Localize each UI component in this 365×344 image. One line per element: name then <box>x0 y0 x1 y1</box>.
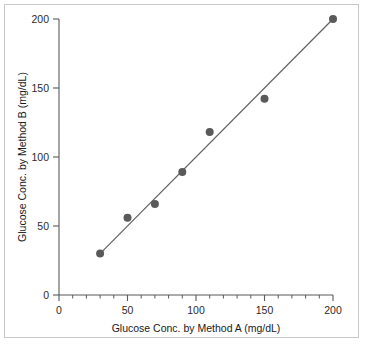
data-point <box>261 95 269 103</box>
x-ticklabel-150: 150 <box>256 304 274 316</box>
data-point <box>206 128 214 136</box>
regression-line <box>100 19 333 254</box>
y-ticklabel-200: 200 <box>31 13 49 25</box>
data-point <box>124 214 132 222</box>
scatter-plot: 200 150 100 50 0 0 50 100 150 200 Glucos… <box>5 5 358 337</box>
y-ticklabel-0: 0 <box>43 289 49 301</box>
x-ticklabel-50: 50 <box>122 304 134 316</box>
x-ticklabel-0: 0 <box>56 304 62 316</box>
x-axis-title: Glucose Conc. by Method A (mg/dL) <box>112 322 281 334</box>
x-ticklabel-100: 100 <box>187 304 205 316</box>
data-point <box>96 250 104 258</box>
y-axis-title: Glucose Conc. by Method B (mg/dL) <box>16 72 28 242</box>
y-ticklabel-150: 150 <box>31 82 49 94</box>
figure-frame: 200 150 100 50 0 0 50 100 150 200 Glucos… <box>4 4 359 338</box>
x-ticklabel-200: 200 <box>324 304 342 316</box>
x-axis-ticklabels: 0 50 100 150 200 <box>56 304 342 316</box>
y-axis-ticklabels: 200 150 100 50 0 <box>31 13 49 301</box>
data-point <box>329 15 337 23</box>
y-axis-ticks <box>53 19 59 295</box>
data-point <box>178 168 186 176</box>
data-point <box>151 200 159 208</box>
y-ticklabel-100: 100 <box>31 151 49 163</box>
y-ticklabel-50: 50 <box>37 220 49 232</box>
